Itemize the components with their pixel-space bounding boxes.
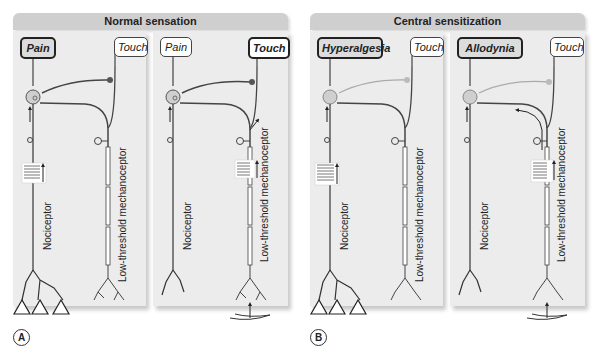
label-touch: Touch: [248, 37, 290, 59]
thermal-hazard-icon: [350, 300, 366, 314]
mechanical-hazard-icon: [14, 300, 30, 314]
inhibitory-interneuron: [107, 77, 113, 83]
panel3-neurons: [311, 51, 421, 314]
nociceptor-label: Nociceptor: [339, 202, 350, 250]
chemical-hazard-icon: [329, 300, 345, 314]
mechanical-hazard-icon: [311, 300, 327, 314]
stimulus-icons: [14, 300, 69, 314]
nociceptor-label: Nociceptor: [42, 202, 53, 250]
figure-letter-a: A: [13, 329, 30, 346]
label-touch: Touch: [114, 37, 148, 57]
label-touch: Touch: [550, 37, 584, 57]
mechanoceptor-label: Low-threshold mechanoceptor: [556, 127, 567, 262]
figure-letter-b: B: [310, 329, 327, 346]
mechanoceptor-label: Low-threshold mechanoceptor: [259, 127, 270, 262]
panel1-neurons: [14, 51, 124, 314]
label-pain: Pain: [160, 37, 192, 57]
label-pain: Pain: [20, 37, 56, 59]
label-touch: Touch: [410, 37, 444, 57]
thermal-hazard-icon: [53, 300, 69, 314]
mechanoceptor-label: Low-threshold mechanoceptor: [414, 147, 425, 282]
label-allodynia: Allodynia: [457, 37, 523, 59]
nociceptor-label: Nociceptor: [479, 202, 490, 250]
mechanoceptor-label: Low-threshold mechanoceptor: [117, 147, 128, 282]
chemical-hazard-icon: [32, 300, 48, 314]
nociceptor-label: Nociceptor: [182, 202, 193, 250]
panel4-neurons: [459, 51, 567, 319]
panel2-neurons: [162, 51, 270, 319]
label-hyperalgesia: Hyperalgesia: [317, 37, 383, 59]
